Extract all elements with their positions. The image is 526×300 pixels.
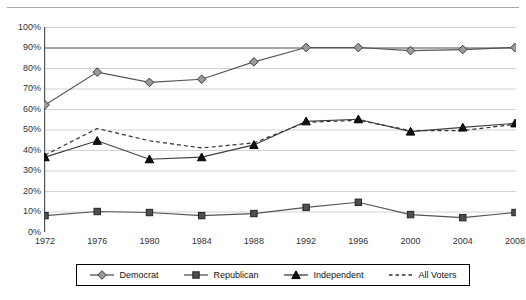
square-marker (355, 199, 361, 205)
x-axis-tick-label: 2004 (440, 236, 486, 246)
square-marker (44, 212, 48, 218)
diamond-marker (197, 75, 206, 84)
chart-legend: DemocratRepublicanIndependentAll Voters (76, 264, 470, 286)
legend-entry[interactable]: Democrat (87, 269, 160, 281)
square-marker (407, 211, 413, 217)
y-axis-tick-label: 40% (3, 146, 41, 155)
series-line-all-voters (45, 120, 515, 155)
y-axis-tick-label: 60% (3, 105, 41, 114)
square-marker (460, 214, 466, 220)
y-axis-tick-label: 80% (3, 64, 41, 73)
legend-label: All Voters (418, 270, 456, 280)
x-axis-tick-label: 1992 (283, 236, 329, 246)
x-axis-tick-label: 2000 (388, 236, 434, 246)
square-marker (512, 209, 516, 215)
y-axis-tick-label: 50% (3, 125, 41, 134)
diamond-marker (458, 45, 467, 54)
x-axis: 1972197619801984198819921996200020042008 (44, 236, 516, 250)
legend-label: Independent (313, 270, 363, 280)
y-axis-tick-label: 10% (3, 207, 41, 216)
legend-entry[interactable]: All Voters (386, 269, 458, 281)
x-axis-tick-label: 1988 (231, 236, 277, 246)
diamond-marker (98, 271, 107, 280)
x-axis-tick-label: 1984 (179, 236, 225, 246)
series-line-democrat (45, 48, 515, 105)
square-marker (146, 209, 152, 215)
plot-area (44, 27, 516, 232)
chart-container: 1972-2008 0%10%20%30%40%50%60%70%80%90%1… (0, 0, 526, 300)
y-axis-tick-label: 90% (3, 43, 41, 52)
legend-none (388, 269, 414, 281)
legend-entry[interactable]: Republican (181, 269, 260, 281)
x-axis-tick-label: 2008 (492, 236, 526, 246)
x-axis-tick-label: 1976 (74, 236, 120, 246)
title-divider (7, 7, 519, 8)
diamond-marker (302, 43, 311, 52)
x-axis-tick-label: 1980 (126, 236, 172, 246)
legend-square-marker (183, 269, 209, 281)
y-axis-tick-label: 30% (3, 166, 41, 175)
triangle-marker (93, 137, 101, 145)
x-axis-tick-label: 1972 (22, 236, 68, 246)
y-axis: 0%10%20%30%40%50%60%70%80%90%100% (0, 27, 41, 232)
diamond-marker (250, 58, 259, 67)
square-marker (303, 204, 309, 210)
square-marker (198, 212, 204, 218)
legend-label: Republican (213, 270, 258, 280)
y-axis-tick-label: 100% (3, 23, 41, 32)
square-marker (94, 208, 100, 214)
diamond-marker (93, 68, 102, 77)
y-axis-tick-label: 70% (3, 84, 41, 93)
square-marker (251, 210, 257, 216)
diamond-marker (145, 78, 154, 87)
y-axis-tick-label: 20% (3, 187, 41, 196)
legend-diamond-marker (89, 269, 115, 281)
diamond-marker (354, 43, 363, 52)
series-line-republican (45, 202, 515, 217)
series-line-independent (45, 119, 515, 159)
plot-svg (44, 27, 516, 232)
x-axis-tick-label: 1996 (335, 236, 381, 246)
square-marker (193, 272, 199, 278)
legend-triangle-marker (283, 269, 309, 281)
chart-title: 1972-2008 (0, 0, 526, 2)
diamond-marker (511, 43, 516, 52)
legend-label: Democrat (119, 270, 158, 280)
diamond-marker (44, 101, 49, 110)
legend-entry[interactable]: Independent (281, 269, 365, 281)
